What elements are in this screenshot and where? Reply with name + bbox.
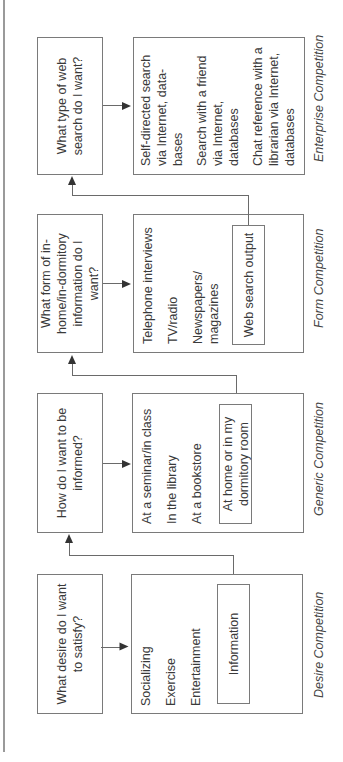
options-list: Self-directed search via Internet, data-…: [138, 42, 306, 166]
option-item: Chat reference with a librarian via Inte…: [250, 42, 298, 166]
options-list: Socializing Exercise Entertainment: [138, 582, 213, 706]
arrow-icon: [68, 355, 76, 364]
question-box-desire: What desire do I want to satisfy?: [37, 574, 103, 714]
connector-line: [69, 542, 70, 556]
arrow-icon: [122, 280, 131, 288]
options-list: Telephone interviews TV/radio Newspapers…: [140, 220, 231, 344]
option-item: TV/radio: [165, 220, 181, 344]
arrow-icon: [65, 534, 73, 543]
option-item: Search with a friend via Internet, datab…: [194, 42, 242, 166]
connector-line: [69, 555, 234, 556]
connector-line: [236, 376, 237, 393]
question-text: How do I want to be informed?: [54, 402, 86, 524]
highlighted-option-text: Web search output: [241, 233, 257, 338]
level-label: Enterprise Competition: [312, 35, 326, 162]
level-label: Generic Competition: [312, 402, 326, 516]
highlighted-option-box: Information: [217, 584, 250, 704]
connector-line: [103, 463, 123, 464]
options-list: At a seminar/in class In the library At …: [139, 400, 214, 524]
option-text: Search with a friend via Internet, datab…: [194, 42, 242, 166]
connector-line: [72, 375, 237, 376]
question-text: What form of in-home/in-dormitory inform…: [38, 223, 102, 344]
arrow-icon: [68, 176, 76, 185]
question-text: What type of web search do I want?: [54, 46, 86, 166]
option-item: Newspapers/ magazines: [190, 264, 222, 344]
connector-line: [233, 556, 234, 574]
option-item: Exercise: [163, 582, 179, 706]
connector-line: [72, 195, 249, 196]
connector-line: [103, 105, 123, 106]
highlighted-option-text: At home or in my dormitory room: [220, 411, 252, 517]
question-box-generic: How do I want to be informed?: [37, 393, 103, 533]
option-item: Entertainment: [188, 582, 204, 706]
highlighted-option-box: At home or in my dormitory room: [219, 404, 252, 524]
option-text: Chat reference with a librarian via Inte…: [250, 42, 298, 166]
level-label: Form Competition: [312, 229, 326, 328]
connector-line: [72, 363, 73, 376]
option-item: Self-directed search via Internet, data-…: [138, 42, 186, 166]
question-box-form: What form of in-home/in-dormitory inform…: [37, 214, 103, 353]
option-item: In the library: [164, 400, 180, 524]
arrow-icon: [122, 102, 131, 110]
level-label: Desire Competition: [312, 592, 326, 698]
highlighted-option-box: Web search output: [232, 225, 265, 345]
option-item: At a seminar/in class: [139, 400, 155, 524]
side-rule: [3, 0, 5, 752]
connector-line: [248, 196, 249, 225]
option-item: At a bookstore: [189, 400, 205, 524]
question-box-enterprise: What type of web search do I want?: [37, 37, 103, 175]
arrow-icon: [122, 460, 131, 468]
highlighted-option-text: Information: [226, 613, 242, 676]
competition-levels-diagram: What desire do I want to satisfy? Social…: [0, 0, 343, 762]
arrow-icon: [120, 643, 129, 651]
connector-line: [103, 283, 123, 284]
option-item: Socializing: [138, 582, 154, 706]
option-text: Self-directed search via Internet, data-…: [138, 42, 186, 166]
question-text: What desire do I want to satisfy?: [54, 583, 86, 705]
connector-line: [72, 184, 73, 196]
option-item: Telephone interviews: [140, 220, 156, 344]
